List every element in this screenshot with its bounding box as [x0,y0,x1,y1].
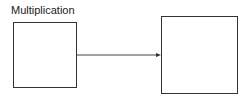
arrowhead-icon [156,53,161,57]
connector-arrow [0,0,248,97]
